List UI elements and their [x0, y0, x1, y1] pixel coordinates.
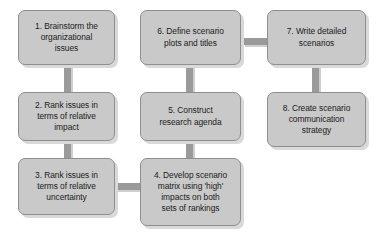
node-step-2-label: 2. Rank issues in terms of relative impa… — [30, 100, 103, 134]
node-step-4[interactable]: 4. Develop scenario matrix using 'high' … — [140, 158, 241, 226]
flowchart-canvas: 1. Brainstorm the organizational issues … — [0, 0, 384, 232]
node-step-5[interactable]: 5. Construct research agenda — [140, 92, 241, 141]
node-step-2[interactable]: 2. Rank issues in terms of relative impa… — [18, 92, 115, 141]
edge-3-4 — [116, 183, 141, 190]
edge-7-8 — [312, 66, 319, 92]
node-step-4-label: 4. Develop scenario matrix using 'high' … — [149, 170, 232, 215]
edge-1-2 — [64, 66, 71, 92]
node-step-3-label: 3. Rank issues in terms of relative unce… — [30, 170, 103, 204]
node-step-3[interactable]: 3. Rank issues in terms of relative unce… — [18, 158, 115, 215]
node-step-5-label: 5. Construct research agenda — [154, 105, 226, 127]
node-step-8-label: 8. Create scenario communication strateg… — [278, 103, 356, 137]
node-step-1-label: 1. Brainstorm the organizational issues — [30, 21, 103, 55]
edge-5-6 — [186, 66, 193, 92]
edge-6-7 — [243, 38, 269, 45]
node-step-8[interactable]: 8. Create scenario communication strateg… — [267, 92, 366, 147]
node-step-6-label: 6. Define scenario plots and titles — [152, 26, 229, 48]
node-step-7[interactable]: 7. Write detailed scenarios — [267, 10, 366, 65]
node-step-6[interactable]: 6. Define scenario plots and titles — [140, 10, 241, 65]
node-step-1[interactable]: 1. Brainstorm the organizational issues — [18, 10, 115, 65]
node-step-7-label: 7. Write detailed scenarios — [282, 26, 352, 48]
